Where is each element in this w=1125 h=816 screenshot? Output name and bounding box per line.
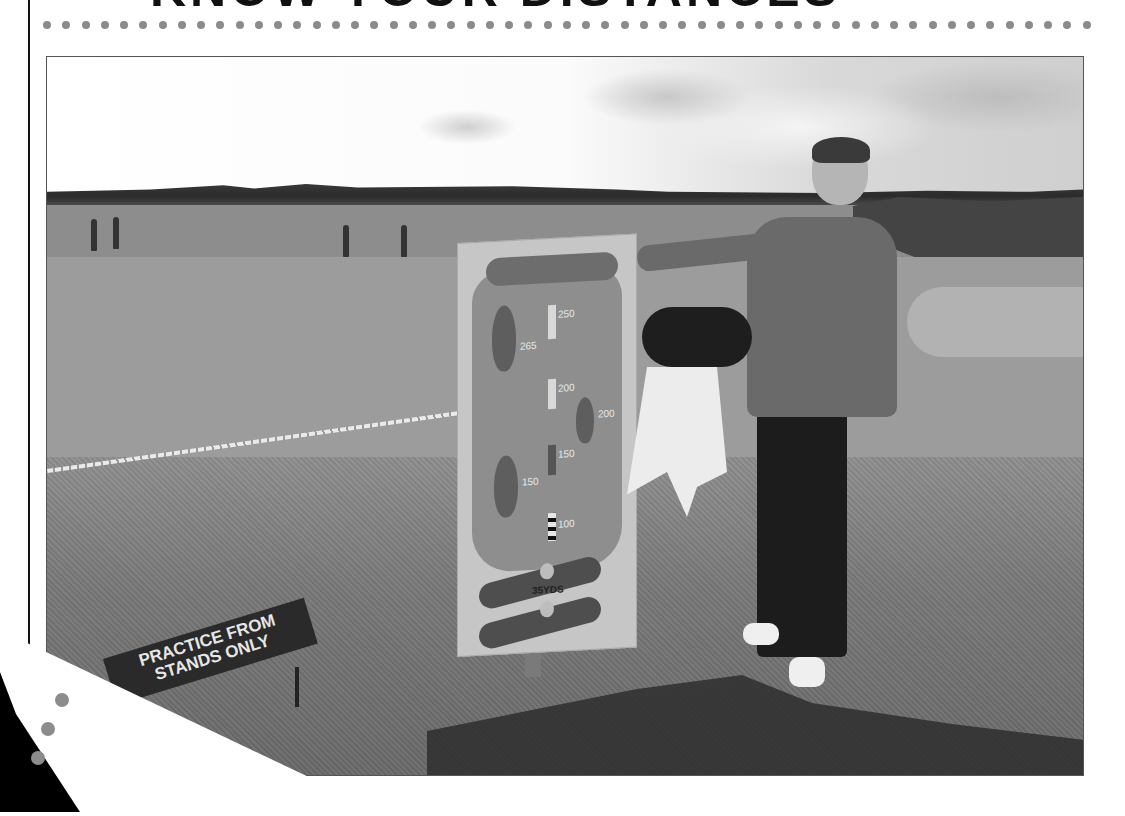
divider-dot [159, 21, 167, 29]
dotted-divider [43, 21, 1103, 31]
divider-dot [678, 21, 686, 29]
divider-dot [544, 21, 552, 29]
divider-dot [255, 21, 263, 29]
sign-label-200b: 200 [598, 408, 615, 420]
sign-label-250: 250 [558, 308, 575, 320]
divider-dot [832, 21, 840, 29]
divider-dot [986, 21, 994, 29]
sign-marker-striped [548, 513, 556, 541]
sign-label-265: 265 [520, 340, 537, 352]
divider-dot [313, 21, 321, 29]
golfer-shoe [743, 623, 779, 645]
divider-dot [582, 21, 590, 29]
divider-dot [274, 21, 282, 29]
divider-dot [948, 21, 956, 29]
curl-dot [55, 693, 69, 707]
divider-dot [332, 21, 340, 29]
sign-green-left-bottom [494, 455, 518, 518]
distant-golfer [113, 217, 119, 249]
divider-dot [409, 21, 417, 29]
divider-dot [293, 21, 301, 29]
divider-dot [871, 21, 879, 29]
divider-dot [813, 21, 821, 29]
distant-golfer [91, 219, 97, 251]
divider-dot [178, 21, 186, 29]
divider-dot [390, 21, 398, 29]
sign-yds-label: 35YDS [532, 583, 564, 596]
curl-dot [41, 722, 55, 736]
divider-dot [1044, 21, 1052, 29]
sign-marker [548, 445, 556, 475]
page-heading: KNOW YOUR DISTANCES [150, 0, 841, 8]
divider-dot [62, 21, 70, 29]
divider-dot [1083, 21, 1091, 29]
divider-dot [101, 21, 109, 29]
golfer-legs [757, 407, 847, 657]
divider-dot [216, 21, 224, 29]
page-left-rule [28, 0, 30, 700]
divider-dot [43, 21, 51, 29]
sign-green-right [576, 397, 594, 444]
divider-dot [524, 21, 532, 29]
divider-dot [120, 21, 128, 29]
sign-marker [548, 379, 556, 409]
curl-dot [31, 751, 45, 765]
golfer-shoe [789, 657, 825, 687]
distant-golfer [343, 225, 349, 257]
divider-dot [505, 21, 513, 29]
sign-marker [548, 305, 556, 339]
sky [47, 57, 1083, 197]
divider-dot [621, 21, 629, 29]
distant-golfer [401, 225, 407, 257]
divider-dot [640, 21, 648, 29]
sign-label-200: 200 [558, 382, 575, 394]
divider-dot [139, 21, 147, 29]
divider-dot [351, 21, 359, 29]
divider-dot [447, 21, 455, 29]
golf-bag-clubs [642, 307, 752, 367]
divider-dot [775, 21, 783, 29]
divider-dot [909, 21, 917, 29]
bunker [907, 287, 1083, 357]
divider-dot [1063, 21, 1071, 29]
ground-sign-post [295, 667, 299, 707]
divider-dot [852, 21, 860, 29]
divider-dot [890, 21, 898, 29]
heading-clip: KNOW YOUR DISTANCES [150, 0, 850, 8]
distance-sign: 250 265 200 200 150 150 100 35YDS [457, 234, 637, 657]
sign-label-150: 150 [558, 448, 575, 460]
divider-dot [929, 21, 937, 29]
divider-dot [698, 21, 706, 29]
sign-label-100: 100 [558, 518, 575, 530]
divider-dot [467, 21, 475, 29]
divider-dot [82, 21, 90, 29]
divider-dot [236, 21, 244, 29]
divider-dot [370, 21, 378, 29]
divider-dot [601, 21, 609, 29]
divider-dot [755, 21, 763, 29]
divider-dot [486, 21, 494, 29]
divider-dot [717, 21, 725, 29]
sign-label-150b: 150 [522, 476, 539, 488]
divider-dot [428, 21, 436, 29]
sign-green-left-top [492, 305, 516, 372]
golfer-hair [812, 137, 870, 163]
divider-dot [659, 21, 667, 29]
divider-dot [1006, 21, 1014, 29]
divider-dot [967, 21, 975, 29]
divider-dot [794, 21, 802, 29]
divider-dot [1025, 21, 1033, 29]
golf-range-photo: 250 265 200 200 150 150 100 35YDS PRACTI… [46, 56, 1084, 776]
divider-dot [563, 21, 571, 29]
divider-dot [736, 21, 744, 29]
divider-dot [197, 21, 205, 29]
